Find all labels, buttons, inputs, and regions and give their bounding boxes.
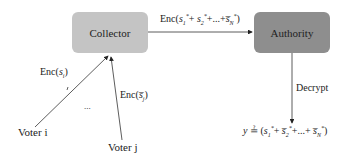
collector-node: Collector: [72, 12, 148, 53]
voter-i: Voter i: [18, 126, 47, 138]
voter-j-edge-label: Enc(s̅j): [120, 89, 148, 102]
collector-label: Collector: [90, 27, 131, 39]
voter-j: Voter j: [108, 141, 137, 153]
result-equation: y ≟ (s1*+ s̅2*+...+ s̅N*): [243, 125, 327, 138]
voter-i-edge-label: Enc(si): [40, 66, 68, 79]
authority-node: Authority: [254, 12, 330, 53]
voters-ellipsis: ...: [84, 101, 91, 111]
decrypt-label: Decrypt: [296, 82, 328, 93]
collector-to-authority-label: Enc(s1*+ s2*+...+s̅N*): [160, 13, 240, 26]
edge-tick-mark: [67, 87, 68, 90]
authority-label: Authority: [271, 27, 314, 39]
